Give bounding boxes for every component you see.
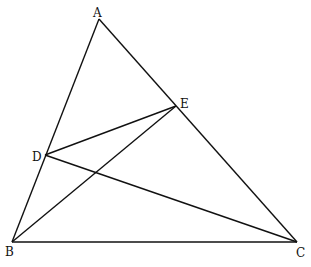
label-b: B [5, 246, 14, 258]
label-e: E [180, 98, 189, 110]
geometry-diagram: A B C D E [0, 0, 311, 267]
label-d: D [32, 151, 42, 163]
segment-ab [12, 19, 99, 242]
segment-de [45, 106, 176, 155]
diagram-canvas [0, 0, 311, 267]
label-a: A [93, 7, 102, 19]
label-c: C [296, 247, 305, 259]
segment-be [12, 106, 176, 242]
